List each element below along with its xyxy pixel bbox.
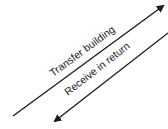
transfer-label: Transfer building [47,23,117,79]
transfer-arrow: Transfer building [13,6,163,116]
arrow-up-right-icon [13,6,163,116]
exchange-diagram: Transfer building Receive in return [0,0,168,129]
arrow-down-left-icon [55,33,168,121]
receive-arrow: Receive in return [55,33,168,121]
